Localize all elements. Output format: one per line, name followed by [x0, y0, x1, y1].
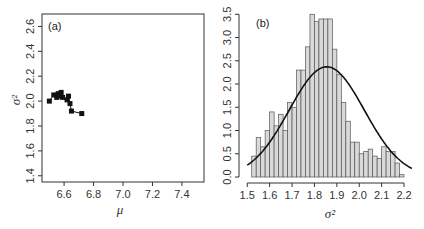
panel-label-b: (b)	[256, 17, 269, 29]
data-point	[60, 95, 65, 100]
data-point	[69, 109, 74, 114]
histogram-bar	[288, 103, 292, 177]
y-tick-label: 0.5	[221, 146, 233, 161]
histogram-bar	[297, 70, 301, 177]
x-tick-label: 2.2	[396, 189, 411, 201]
histogram-panel-b: 0.00.51.01.52.02.53.03.5 1.51.61.71.81.9…	[221, 7, 412, 221]
panel-label-a: (a)	[48, 20, 61, 32]
y-tick-label: 1.4	[24, 168, 36, 183]
data-point	[47, 99, 52, 104]
histogram-bar	[305, 47, 309, 177]
histogram-bar	[382, 147, 386, 177]
histogram-bar	[270, 112, 274, 177]
x-axis-b: 1.51.61.71.81.92.02.12.2	[240, 183, 412, 201]
x-tick-label: 7.0	[115, 188, 130, 200]
y-tick-label: 2.0	[24, 93, 36, 108]
figure: 1.41.61.82.02.22.42.6 6.66.87.07.27.4 (a…	[0, 0, 424, 229]
y-axis-a: 1.41.61.82.02.22.42.6	[24, 19, 42, 184]
y-tick-label: 1.8	[24, 118, 36, 133]
histogram-bar	[265, 131, 269, 177]
y-tick-label: 1.0	[221, 123, 233, 138]
histogram-bar	[323, 19, 327, 177]
data-point	[67, 101, 72, 106]
histogram-bar	[310, 14, 314, 177]
x-axis-label-b: σ²	[325, 206, 336, 221]
x-axis-label-a: μ	[116, 202, 124, 217]
histogram-bar	[359, 154, 363, 177]
histogram-bar	[314, 21, 318, 177]
y-tick-label: 1.6	[24, 143, 36, 158]
y-tick-label: 2.4	[24, 44, 36, 59]
x-tick-label: 2.0	[352, 189, 367, 201]
y-tick-label: 2.5	[221, 53, 233, 68]
scatter-panel-a: 1.41.61.82.02.22.42.6 6.66.87.07.27.4 (a…	[8, 14, 204, 217]
y-tick-label: 2.0	[221, 76, 233, 91]
x-tick-label: 7.2	[145, 188, 160, 200]
histogram-bar	[368, 149, 372, 177]
scatter-points	[47, 90, 84, 116]
x-axis-a: 6.66.87.07.27.4	[56, 182, 189, 200]
histogram-bar	[373, 156, 377, 177]
y-tick-label: 0.0	[221, 169, 233, 184]
data-point	[66, 94, 71, 99]
histogram-bar	[395, 163, 399, 177]
y-axis-b: 0.00.51.01.52.02.53.03.5	[221, 7, 239, 185]
y-axis-label-a: σ²	[8, 94, 23, 105]
y-tick-label: 3.5	[221, 7, 233, 22]
x-tick-label: 1.8	[307, 189, 322, 201]
histogram-bar	[350, 142, 354, 177]
histogram-bar	[386, 151, 390, 177]
x-tick-label: 1.6	[262, 189, 277, 201]
histogram-bars	[252, 14, 404, 177]
y-tick-label: 2.2	[24, 69, 36, 84]
x-tick-label: 6.8	[86, 188, 101, 200]
x-tick-label: 1.7	[284, 189, 299, 201]
x-tick-label: 2.1	[374, 189, 389, 201]
histogram-bar	[355, 142, 359, 177]
histogram-bar	[337, 75, 341, 177]
histogram-bar	[400, 175, 404, 177]
histogram-bar	[364, 151, 368, 177]
data-point	[79, 111, 84, 116]
y-tick-label: 2.6	[24, 19, 36, 34]
x-tick-label: 6.6	[56, 188, 71, 200]
data-point	[59, 90, 64, 95]
x-tick-label: 7.4	[174, 188, 189, 200]
x-tick-label: 1.5	[240, 189, 255, 201]
histogram-bar	[341, 103, 345, 177]
y-tick-label: 1.5	[221, 100, 233, 115]
histogram-bar	[319, 19, 323, 177]
histogram-bar	[377, 158, 381, 177]
histogram-bar	[292, 107, 296, 177]
x-tick-label: 1.9	[329, 189, 344, 201]
histogram-bar	[346, 121, 350, 177]
histogram-bar	[328, 19, 332, 177]
histogram-bar	[283, 131, 287, 177]
y-tick-label: 3.0	[221, 30, 233, 45]
